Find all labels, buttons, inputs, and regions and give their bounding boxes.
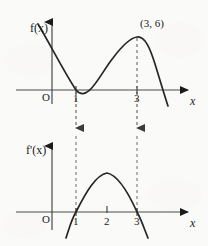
lower-xtick-label-2: 2 — [104, 216, 110, 227]
upper-xtick-label-1: 1 — [73, 93, 79, 104]
lower-origin-label: O — [42, 214, 50, 225]
lower-x-axis-label: x — [190, 217, 195, 229]
scan-noise — [0, 0, 208, 246]
upper-point-annotation: (3, 6) — [140, 18, 164, 29]
upper-xtick-label-3: 3 — [134, 93, 140, 104]
upper-origin-label: O — [42, 92, 50, 103]
upper-function-label: f(x) — [30, 22, 48, 34]
upper-x-axis-label: x — [190, 95, 195, 107]
lower-xtick-label-3: 3 — [134, 216, 140, 227]
lower-xtick-label-1: 1 — [73, 216, 79, 227]
figure-canvas — [0, 0, 208, 246]
math-figure: f(x) O 1 3 (3, 6) x f'(x) O 1 2 3 x — [0, 0, 208, 246]
lower-function-label: f'(x) — [26, 144, 46, 156]
